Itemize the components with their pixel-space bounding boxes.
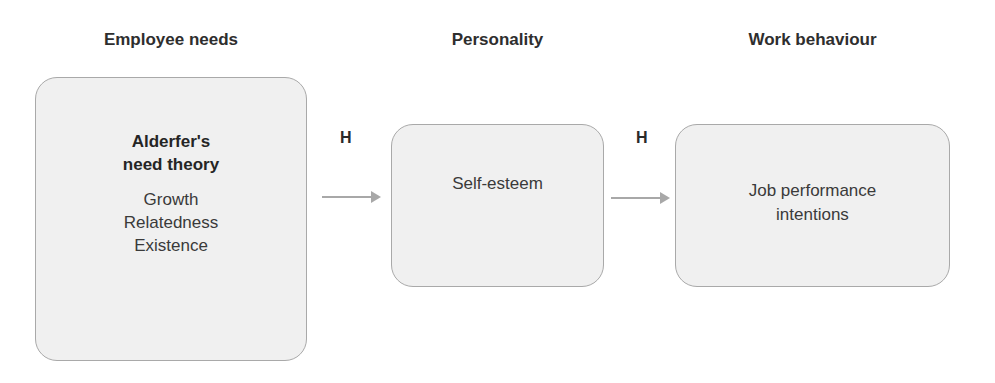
box-text-job-performance: Job performance intentions xyxy=(749,179,877,227)
box-text-line: Job performance xyxy=(749,179,877,203)
need-item-relatedness: Relatedness xyxy=(124,211,219,234)
heading-work-behaviour: Work behaviour xyxy=(675,30,950,50)
box-title-alderfer: Alderfer's need theory xyxy=(123,130,219,176)
arrow-right-icon xyxy=(322,196,372,198)
connector-label-h-1: H xyxy=(340,129,352,147)
box-text-self-esteem: Self-esteem xyxy=(452,172,543,196)
heading-personality: Personality xyxy=(391,30,604,50)
box-text-line: intentions xyxy=(749,203,877,227)
box-employee-needs: Alderfer's need theory Growth Relatednes… xyxy=(35,77,307,361)
arrow-right-icon xyxy=(611,197,661,199)
heading-employee-needs: Employee needs xyxy=(35,30,307,50)
need-item-growth: Growth xyxy=(124,188,219,211)
need-item-existence: Existence xyxy=(124,234,219,257)
box-work-behaviour: Job performance intentions xyxy=(675,124,950,287)
box-text-line: Self-esteem xyxy=(452,172,543,196)
box-title-line: Alderfer's xyxy=(123,130,219,153)
connector-label-h-2: H xyxy=(636,129,648,147)
box-personality: Self-esteem xyxy=(391,124,604,287)
need-list: Growth Relatedness Existence xyxy=(124,188,219,257)
box-title-line: need theory xyxy=(123,153,219,176)
